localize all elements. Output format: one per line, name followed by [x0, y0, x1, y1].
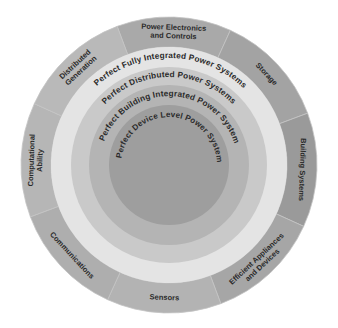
segment-label-sensors: Sensors: [149, 292, 179, 302]
segment-label-line: Ability: [35, 148, 45, 172]
ring-perfect-device-level-power-system: [109, 105, 229, 225]
segment-label-line: and Controls: [150, 31, 197, 42]
power-systems-ring-diagram: Power Electronicsand ControlsStorageBuil…: [0, 0, 338, 328]
diagram-canvas: Power Electronicsand ControlsStorageBuil…: [0, 0, 338, 328]
segment-label-line: Sensors: [149, 292, 179, 302]
inner-rings: [51, 47, 287, 283]
